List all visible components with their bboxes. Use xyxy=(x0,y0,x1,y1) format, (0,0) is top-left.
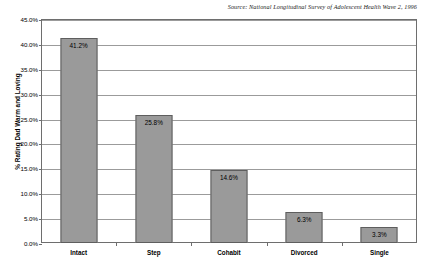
x-axis-label: Step xyxy=(114,249,194,256)
y-tick-label: 15.0% xyxy=(4,165,38,172)
x-axis-label: Single xyxy=(339,249,419,256)
bar-slot: 3.3% xyxy=(342,19,417,243)
bars-layer: 41.2%25.8%14.6%6.3%3.3% xyxy=(41,19,417,243)
bar[interactable]: 6.3% xyxy=(286,212,323,243)
bar-value-label: 3.3% xyxy=(362,231,397,239)
bar-value-label: 25.8% xyxy=(136,119,171,127)
x-tick-mark xyxy=(342,243,343,246)
x-axis-label: Divorced xyxy=(264,249,344,256)
x-tick-mark xyxy=(191,243,192,246)
x-axis-label: Intact xyxy=(39,249,119,256)
bar-value-label: 41.2% xyxy=(61,42,96,50)
bar-chart: Source: National Longitudinal Survey of … xyxy=(0,0,423,263)
y-tick-label: 45.0% xyxy=(4,16,38,23)
bar[interactable]: 25.8% xyxy=(135,115,172,243)
bar-value-label: 14.6% xyxy=(211,174,246,182)
y-tick-label: 5.0% xyxy=(4,215,38,222)
bar[interactable]: 3.3% xyxy=(361,227,398,243)
y-tick-label: 0.0% xyxy=(4,240,38,247)
bar[interactable]: 14.6% xyxy=(210,170,247,243)
y-tick-label: 20.0% xyxy=(4,140,38,147)
y-tick-label: 10.0% xyxy=(4,190,38,197)
y-tick-mark xyxy=(39,244,42,245)
y-tick-label: 30.0% xyxy=(4,90,38,97)
bar-slot: 25.8% xyxy=(116,19,191,243)
bar[interactable]: 41.2% xyxy=(60,38,97,243)
source-note: Source: National Longitudinal Survey of … xyxy=(228,3,417,10)
x-tick-mark xyxy=(116,243,117,246)
bar-value-label: 6.3% xyxy=(287,216,322,224)
bar-slot: 6.3% xyxy=(267,19,342,243)
y-tick-label: 40.0% xyxy=(4,41,38,48)
y-tick-label: 25.0% xyxy=(4,115,38,122)
x-tick-mark xyxy=(267,243,268,246)
y-tick-label: 35.0% xyxy=(4,65,38,72)
x-axis-label: Cohabit xyxy=(189,249,269,256)
bar-slot: 41.2% xyxy=(41,19,116,243)
bar-slot: 14.6% xyxy=(191,19,266,243)
